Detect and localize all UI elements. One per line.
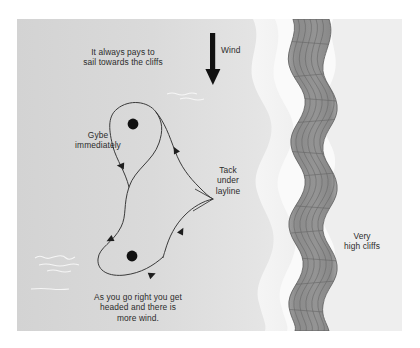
illustration-canvas: It always pays to sail towards the cliff… — [17, 19, 402, 331]
tack-under-layline-label: Tack under layline — [199, 165, 257, 196]
top-advice-label: It always pays to sail towards the cliff… — [55, 47, 191, 68]
wind-label: Wind — [221, 45, 265, 55]
figure-root: It always pays to sail towards the cliff… — [0, 0, 420, 348]
race-mark-dot-upper — [128, 119, 139, 130]
race-mark-dot-lower — [127, 251, 138, 262]
bottom-advice-label: As you go right you get headed and there… — [63, 292, 213, 323]
gybe-label: Gybe immediately — [53, 130, 143, 151]
very-high-cliffs-label: Very high cliffs — [329, 231, 395, 252]
